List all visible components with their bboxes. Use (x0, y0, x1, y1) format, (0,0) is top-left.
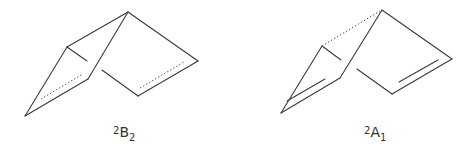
label-superscript: 2 (113, 125, 119, 136)
label-2A1: 2A1 (364, 124, 386, 140)
structure-2B2 (25, 12, 198, 116)
structure-2A1 (281, 10, 452, 113)
label-superscript: 2 (364, 125, 370, 136)
partial-bond (322, 11, 380, 46)
bond (25, 79, 88, 116)
bond (392, 59, 452, 94)
bond (128, 12, 198, 61)
bond (88, 12, 128, 79)
bond (67, 47, 87, 61)
bond (357, 69, 392, 94)
label-2B2: 2B2 (113, 124, 135, 140)
bond (138, 61, 198, 96)
partial-bond (41, 74, 83, 99)
bond (102, 70, 138, 96)
label-subscript: 1 (380, 132, 386, 143)
label-subscript: 2 (129, 132, 135, 143)
bond (67, 12, 128, 47)
bond (322, 46, 341, 60)
label-symbol: B (119, 124, 129, 140)
diagram-canvas (0, 0, 475, 156)
bond (25, 47, 67, 116)
bond (281, 78, 340, 113)
bond (281, 46, 322, 113)
bond (382, 10, 452, 59)
label-symbol: A (370, 124, 380, 140)
partial-bond (140, 62, 184, 88)
bond (340, 10, 382, 78)
